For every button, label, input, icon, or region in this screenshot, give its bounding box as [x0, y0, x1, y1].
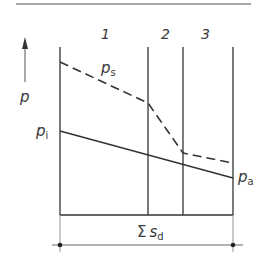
axis-label-p: p [19, 88, 30, 106]
pressure-diagram: p 1 2 3 ps pi pa Σsd [0, 0, 259, 262]
label-ps: ps [100, 59, 116, 78]
label-pi: pi [35, 122, 48, 141]
zone-label-2: 2 [161, 26, 170, 42]
curve-pressure [60, 131, 233, 178]
label-pa: pa [237, 168, 254, 187]
zone-label-3: 3 [201, 26, 210, 42]
curve-ps [60, 62, 233, 163]
label-sum-sd: Σsd [137, 223, 164, 242]
dimension-dot-right [231, 243, 236, 248]
dimension-dot-left [58, 243, 63, 248]
pressure-axis-arrow-icon [22, 37, 28, 82]
zone-label-1: 1 [101, 26, 110, 42]
